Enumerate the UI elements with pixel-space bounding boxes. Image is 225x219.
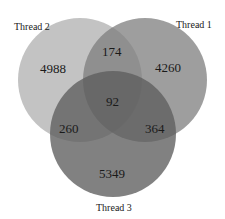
label-thread-2: Thread 2 <box>14 21 50 32</box>
count-thread-1-2: 174 <box>102 44 122 59</box>
label-thread-3: Thread 3 <box>96 202 132 213</box>
label-thread-1: Thread 1 <box>176 19 212 30</box>
count-thread-1-2-3: 92 <box>106 94 119 109</box>
count-thread-2-3: 260 <box>59 121 79 136</box>
count-thread-1-only: 4260 <box>155 60 181 75</box>
count-thread-1-3: 364 <box>145 121 165 136</box>
count-thread-2-only: 4988 <box>40 61 66 76</box>
venn-diagram: Thread 2 Thread 1 Thread 3 4988 4260 534… <box>0 0 225 219</box>
count-thread-3-only: 5349 <box>99 166 125 181</box>
